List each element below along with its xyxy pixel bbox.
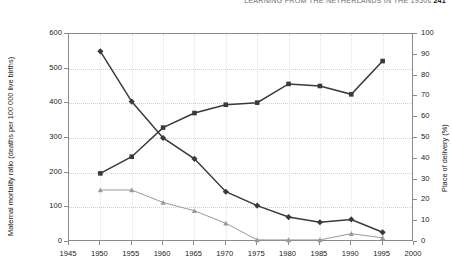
y-axis-right-tick-label: 70 [421, 90, 451, 99]
x-axis-tick-label: 1985 [302, 249, 336, 258]
running-header-text: LEARNING FROM THE NETHERLANDS IN THE 195… [244, 0, 431, 5]
series-line [100, 190, 382, 240]
x-axis-tick-label: 1960 [145, 249, 179, 258]
series-line [100, 61, 382, 173]
data-point-marker [192, 111, 197, 116]
chart-page: LEARNING FROM THE NETHERLANDS IN THE 195… [0, 0, 452, 268]
data-point-marker [161, 125, 166, 130]
series-line [100, 51, 382, 232]
y-axis-right-tick-label: 100 [421, 28, 451, 37]
data-point-marker [224, 102, 229, 107]
y-axis-right-tick-label: 10 [421, 215, 451, 224]
series-2 [98, 59, 385, 176]
x-axis-tick-label: 2000 [396, 249, 430, 258]
data-point-marker [348, 216, 354, 222]
data-point-marker [129, 154, 134, 159]
y-axis-right-tick-label: 80 [421, 70, 451, 79]
data-point-marker [317, 219, 323, 225]
x-axis-tick-label: 1955 [114, 249, 148, 258]
data-point-marker [380, 59, 385, 64]
plot-area [68, 33, 413, 241]
series-1 [97, 48, 385, 235]
data-point-marker [349, 92, 354, 97]
y-axis-left-tick-label: 400 [34, 97, 62, 106]
data-series-layer [69, 34, 414, 242]
y-axis-right-tick-label: 50 [421, 132, 451, 141]
data-point-marker [380, 229, 386, 235]
data-point-marker [254, 203, 260, 209]
x-axis-tick-label: 1965 [176, 249, 210, 258]
data-point-marker [286, 82, 291, 87]
y-axis-left-tick-label: 600 [34, 28, 62, 37]
x-axis-tick-label: 1975 [239, 249, 273, 258]
y-axis-left-tick-label: 500 [34, 63, 62, 72]
x-axis-tick-label: 1950 [82, 249, 116, 258]
y-axis-right-tick-label: 90 [421, 49, 451, 58]
series-3 [98, 187, 385, 242]
y-axis-left-tick-label: 0 [34, 236, 62, 245]
data-point-marker [255, 100, 260, 105]
y-axis-right-tick-label: 20 [421, 194, 451, 203]
data-point-marker [285, 214, 291, 220]
running-header: LEARNING FROM THE NETHERLANDS IN THE 195… [0, 0, 452, 6]
y-axis-right-tick-label: 40 [421, 153, 451, 162]
y-axis-right-tick-label: 60 [421, 111, 451, 120]
y-axis-right-tick-label: 0 [421, 236, 451, 245]
page-number: 241 [433, 0, 446, 5]
x-axis-tick-label: 1970 [208, 249, 242, 258]
y-axis-left-tick-label: 200 [34, 167, 62, 176]
y-axis-left-tick-label: 100 [34, 201, 62, 210]
x-axis-tick-label: 1980 [271, 249, 305, 258]
x-axis-tick-label: 1995 [365, 249, 399, 258]
y-axis-right-tick-label: 30 [421, 174, 451, 183]
data-point-marker [318, 84, 323, 89]
data-point-marker [98, 171, 103, 176]
y-axis-left-tick-label: 300 [34, 132, 62, 141]
x-axis-tick-label: 1990 [333, 249, 367, 258]
x-axis-tick-label: 1945 [51, 249, 85, 258]
